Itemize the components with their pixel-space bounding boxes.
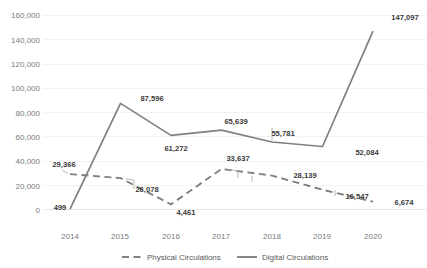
y-tick-80000: 80,000 <box>16 109 41 118</box>
y-tick-60000: 60,000 <box>16 133 41 142</box>
x-tick-2014: 2014 <box>61 232 79 241</box>
value-label-physical-2019: 16,547 <box>345 192 368 201</box>
value-label-digital-2014: 499 <box>54 203 67 212</box>
value-label-digital-2016: 61,272 <box>164 144 187 153</box>
value-label-physical-2020: 6,674 <box>394 198 414 207</box>
value-label-digital-2017: 65,639 <box>224 117 247 126</box>
series-line-physical-circulations <box>70 169 373 205</box>
gridlines <box>44 15 427 209</box>
value-label-physical-2014: 29,366 <box>52 160 75 169</box>
y-tick-0: 0 <box>36 206 41 215</box>
leader-phys-2014 <box>62 170 68 174</box>
chart-container: 160,000 140,000 120,000 100,000 80,000 6… <box>0 0 427 268</box>
x-axis: 2014 2015 2016 2017 2018 2019 2020 <box>61 232 382 241</box>
x-tick-2016: 2016 <box>162 232 180 241</box>
chart-legend: Physical Circulations Digital Circulatio… <box>122 253 328 262</box>
legend-label-physical-circulations[interactable]: Physical Circulations <box>147 253 221 262</box>
legend-label-digital-circulations[interactable]: Digital Circulations <box>262 253 328 262</box>
y-axis: 160,000 140,000 120,000 100,000 80,000 6… <box>11 11 40 214</box>
x-tick-2019: 2019 <box>313 232 331 241</box>
value-label-digital-2015: 87,596 <box>140 94 163 103</box>
value-label-digital-2019: 52,084 <box>355 148 379 157</box>
line-chart: 160,000 140,000 120,000 100,000 80,000 6… <box>0 0 427 268</box>
x-tick-2018: 2018 <box>263 232 281 241</box>
x-tick-2020: 2020 <box>364 232 382 241</box>
y-tick-100000: 100,000 <box>11 84 40 93</box>
value-label-digital-2020: 147,097 <box>391 13 418 22</box>
series-line-digital-circulations <box>70 31 373 209</box>
y-tick-40000: 40,000 <box>16 157 41 166</box>
value-label-physical-2017: 33,637 <box>226 154 249 163</box>
value-label-physical-2015: 26,078 <box>135 185 158 194</box>
value-label-physical-2016: 4,461 <box>176 208 196 217</box>
y-tick-120000: 120,000 <box>11 60 40 69</box>
y-tick-20000: 20,000 <box>16 182 41 191</box>
value-label-digital-2018: 55,781 <box>271 129 295 138</box>
value-label-physical-2018: 28,139 <box>293 171 316 180</box>
x-tick-2015: 2015 <box>111 232 129 241</box>
y-tick-160000: 160,000 <box>11 11 40 20</box>
y-tick-140000: 140,000 <box>11 36 40 45</box>
x-tick-2017: 2017 <box>212 232 230 241</box>
